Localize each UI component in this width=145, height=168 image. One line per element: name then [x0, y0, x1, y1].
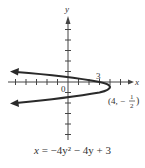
curve-lower-arrow-icon [10, 100, 19, 108]
y-axis-arrow-icon [66, 16, 71, 24]
vertex-label: (4, − 1 2 ) [108, 93, 139, 110]
vertex-frac-num: 1 [130, 93, 134, 101]
equation-caption: x = −4y² − 4y + 3 [0, 144, 145, 156]
x-tick-label-3: 3 [96, 71, 101, 81]
origin-label: 0 [61, 84, 66, 94]
y-axis-label: y [64, 4, 69, 14]
curve-upper-arrow-icon [10, 68, 19, 76]
equation-rhs: = −4y² − 4y + 3 [39, 144, 111, 156]
x-axis-arrow-icon [128, 80, 134, 85]
vertex-label-close: ) [136, 95, 139, 107]
x-axis-label: x [134, 77, 139, 87]
vertex-label-text: (4, − [108, 96, 125, 106]
vertex-frac-den: 2 [130, 102, 134, 110]
parabola-graph: y x 0 3 (4, − 1 2 ) [0, 0, 145, 168]
